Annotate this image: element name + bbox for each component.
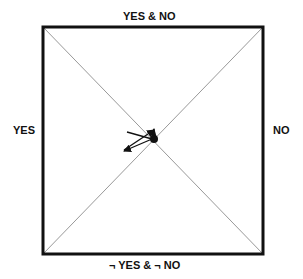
label-top: YES & NO (123, 10, 176, 22)
square-of-opposition-diagram: YES & NO ¬ YES & ¬ NO YES NO (0, 0, 303, 279)
label-right: NO (273, 124, 290, 136)
diagram-canvas (0, 0, 303, 279)
center-point (150, 135, 158, 143)
label-left: YES (13, 124, 35, 136)
label-bottom: ¬ YES & ¬ NO (109, 259, 180, 271)
